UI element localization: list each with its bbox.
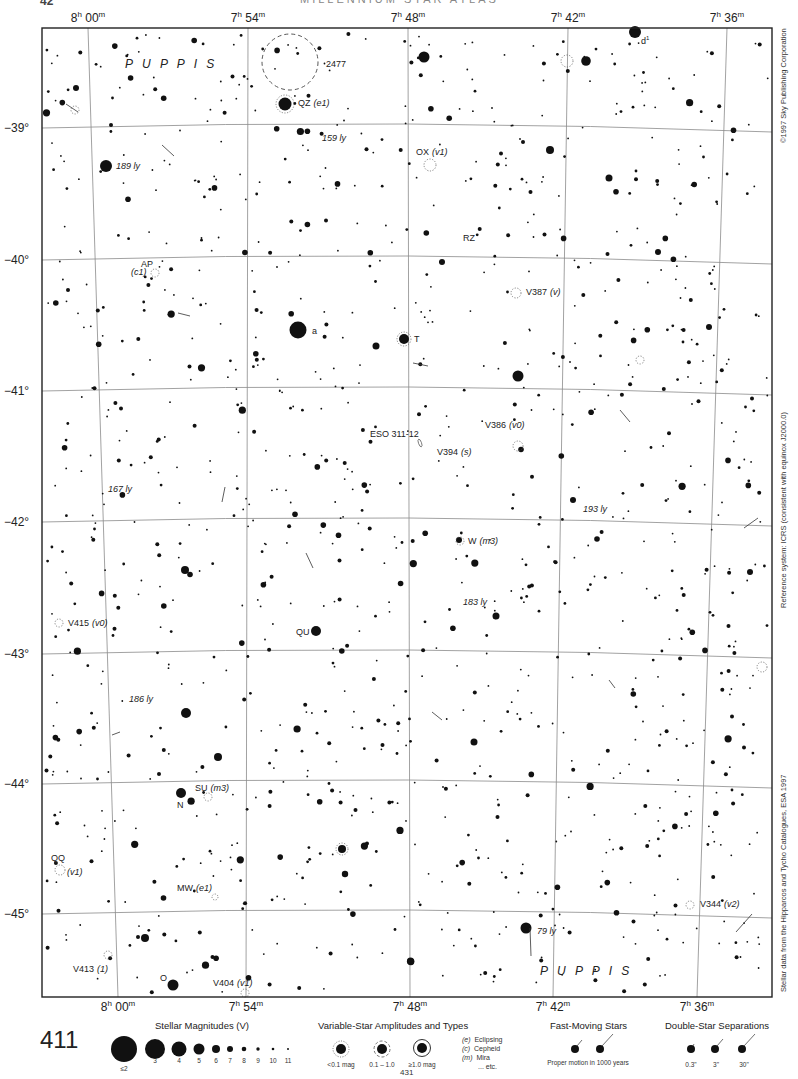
magnitude-label: 4 — [177, 1057, 181, 1064]
legend-doubles-title: Double-Star Separations — [665, 1020, 769, 1031]
next-page-reference[interactable]: 431 — [400, 1068, 413, 1077]
object-label: ESO 311-12 — [370, 429, 419, 439]
object-label: QU — [296, 627, 310, 637]
separation-small: 0.3" — [685, 1061, 696, 1068]
magnitude-label: 10 — [269, 1057, 276, 1064]
object-label: OX(v1) — [416, 147, 448, 157]
object-label: a — [312, 326, 317, 336]
object-label: V394(s) — [437, 447, 472, 457]
copyright-note: ©1997 Sky Publishing Corporation — [779, 28, 788, 143]
magnitude-label: 3 — [153, 1057, 157, 1064]
variable-star-symbols — [333, 1040, 431, 1058]
type-eclipsing: (e) Eclipsing — [462, 1036, 502, 1043]
magnitude-label: 9 — [256, 1057, 260, 1064]
magnitude-label: 11 — [285, 1057, 292, 1064]
object-label: T — [414, 334, 420, 344]
object-label: N — [177, 800, 184, 810]
star-field — [43, 26, 769, 994]
separation-medium: 3" — [713, 1061, 719, 1068]
star-chart[interactable]: P U P P I SP U P P I S2477QZ(e1)d1159 ly… — [0, 0, 798, 1079]
object-label: V404(v1) — [213, 978, 253, 988]
legend-fast-moving-title: Fast-Moving Stars — [550, 1020, 627, 1031]
type-etc: ... etc. — [478, 1063, 497, 1070]
object-label: 193 ly — [583, 504, 608, 514]
object-label: 183 ly — [463, 597, 488, 607]
type-cepheid: (c) Cepheid — [462, 1045, 500, 1052]
type-mira: (m) Mira — [462, 1054, 490, 1061]
legend-variables-title: Variable-Star Amplitudes and Types — [318, 1020, 468, 1031]
coordinate-grid — [42, 28, 772, 997]
amplitude-large: ≥1.0 mag — [408, 1061, 435, 1068]
fast-moving-symbols — [571, 1034, 613, 1053]
object-label: W(m3) — [468, 536, 498, 546]
object-label: V415(v0) — [68, 618, 108, 628]
object-label: SU(m3) — [195, 783, 229, 793]
magnitude-label: 5 — [197, 1057, 201, 1064]
magnitude-label: 7 — [228, 1057, 232, 1064]
object-label: QQ — [51, 853, 65, 863]
object-label: V387(v) — [526, 287, 561, 297]
legend: 411 Stellar Magnitudes (V) ≤234567891011 — [0, 1018, 798, 1079]
magnitude-label: ≤2 — [120, 1065, 127, 1072]
chart-frame — [42, 28, 772, 997]
amplitude-small: <0.1 mag — [327, 1061, 354, 1068]
reference-system-note: Reference system: ICRS (consistent with … — [779, 412, 788, 608]
chart-features — [55, 34, 767, 997]
object-label: V386(v0) — [485, 420, 525, 430]
object-label: 167 ly — [108, 484, 133, 494]
object-label: 159 ly — [322, 133, 347, 143]
magnitude-label: 6 — [214, 1057, 218, 1064]
object-label: O — [160, 973, 167, 983]
magnitude-label: 8 — [242, 1057, 246, 1064]
object-label: (v1) — [67, 867, 83, 877]
object-label: 2477 — [326, 59, 346, 69]
constellation-label: P U P P I S — [125, 57, 217, 71]
data-source-note: Stellar data from the Hipparcos and Tych… — [779, 775, 788, 993]
proper-motion-caption: Proper motion in 1000 years — [547, 1059, 629, 1066]
double-star-symbols — [687, 1034, 755, 1053]
object-label: V413(1) — [73, 964, 108, 974]
separation-large: 30" — [739, 1061, 749, 1068]
object-label: (c1) — [131, 267, 147, 277]
object-label: V344(v2) — [700, 899, 740, 909]
object-label: QZ(e1) — [298, 98, 330, 108]
object-label: 189 ly — [116, 161, 141, 171]
object-label: d1 — [641, 35, 650, 46]
object-label: RZ — [463, 233, 475, 243]
amplitude-medium: 0.1 – 1.0 — [369, 1061, 394, 1068]
constellation-label: P U P P I S — [540, 964, 632, 978]
object-label: 79 ly — [537, 926, 557, 936]
object-label: 186 ly — [129, 694, 154, 704]
